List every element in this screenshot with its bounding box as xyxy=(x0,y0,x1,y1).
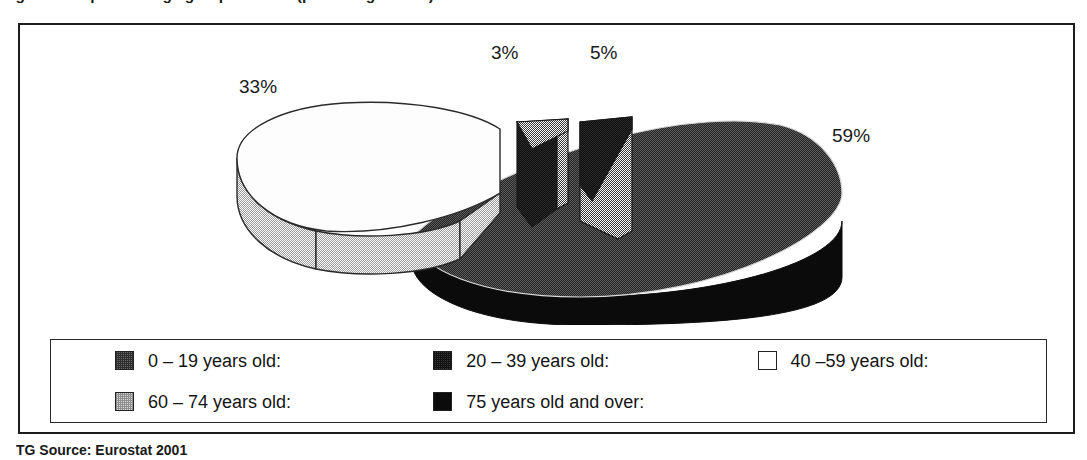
legend-swatch-75-plus xyxy=(433,392,452,411)
legend-label-0-19: 0 – 19 years old: xyxy=(148,352,281,370)
legend-label-75-plus: 75 years old and over: xyxy=(466,393,644,411)
slice-20-39 xyxy=(580,117,632,239)
figure-title: Figure 1: Population age groups in 2001 … xyxy=(0,0,1087,6)
legend-swatch-40-59 xyxy=(758,351,777,370)
chart-frame: 3% 5% 33% 59% 0 – 19 years old: 20 – 39 … xyxy=(18,23,1075,434)
data-label-60-74: 59% xyxy=(832,125,870,147)
legend-swatch-20-39 xyxy=(433,351,452,370)
legend-item-75-plus[interactable]: 75 years old and over: xyxy=(409,392,737,411)
figure-source-text: TG Source: Eurostat 2001 xyxy=(16,442,616,458)
data-label-40-59: 33% xyxy=(239,76,277,98)
legend-item-60-74[interactable]: 60 – 74 years old: xyxy=(51,392,409,411)
legend-item-40-59[interactable]: 40 –59 years old: xyxy=(738,351,1046,370)
legend-label-40-59: 40 –59 years old: xyxy=(791,352,929,370)
figure-source: TG Source: Eurostat 2001 xyxy=(16,442,616,460)
legend-label-60-74: 60 – 74 years old: xyxy=(148,393,291,411)
legend-label-20-39: 20 – 39 years old: xyxy=(466,352,609,370)
chart-page: Figure 1: Population age groups in 2001 … xyxy=(0,0,1087,460)
slice-40-59 xyxy=(237,102,500,274)
data-label-20-39: 5% xyxy=(590,42,617,64)
legend-swatch-60-74 xyxy=(115,392,134,411)
pie-plot-area: 3% 5% 33% 59% xyxy=(20,25,1073,325)
chart-legend: 0 – 19 years old: 20 – 39 years old: 40 … xyxy=(50,339,1047,423)
data-label-0-19: 3% xyxy=(491,42,518,64)
legend-item-20-39[interactable]: 20 – 39 years old: xyxy=(409,351,737,370)
figure-title-text: Figure 1: Population age groups in 2001 … xyxy=(0,0,1087,4)
pie-chart-3d xyxy=(20,25,1073,325)
legend-swatch-0-19 xyxy=(115,351,134,370)
legend-item-0-19[interactable]: 0 – 19 years old: xyxy=(51,351,409,370)
